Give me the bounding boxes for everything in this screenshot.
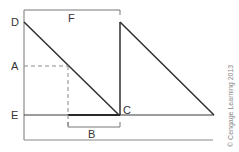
label-a: A bbox=[11, 61, 18, 72]
label-b: B bbox=[88, 129, 95, 140]
bracket-b bbox=[68, 122, 120, 127]
diagram-canvas bbox=[0, 0, 239, 152]
label-d: D bbox=[11, 17, 19, 28]
copyright-notice: © Cengage Learning 2013 bbox=[227, 65, 234, 147]
label-e: E bbox=[11, 110, 18, 121]
second-triangle bbox=[120, 22, 214, 115]
label-f: F bbox=[68, 13, 75, 24]
diagonal-d-c bbox=[24, 22, 119, 115]
label-c: C bbox=[123, 105, 131, 116]
